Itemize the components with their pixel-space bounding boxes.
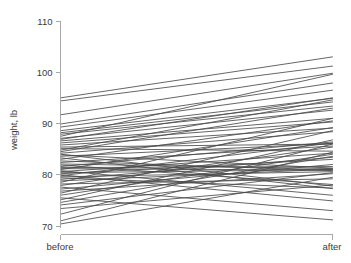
y-tick-label: 80 bbox=[42, 169, 53, 180]
x-label-after: after bbox=[322, 241, 341, 252]
y-tick-label: 70 bbox=[42, 221, 53, 232]
y-tick-label: 110 bbox=[37, 16, 52, 27]
y-tick-label: 90 bbox=[42, 118, 53, 129]
y-axis-title: weight, lb bbox=[8, 110, 19, 151]
x-label-before: before bbox=[47, 241, 74, 252]
y-tick-label: 100 bbox=[37, 67, 53, 78]
chart-figure: 708090100110 weight, lb before after bbox=[0, 0, 351, 263]
parallel-coordinates-plot: 708090100110 weight, lb before after bbox=[0, 0, 351, 263]
